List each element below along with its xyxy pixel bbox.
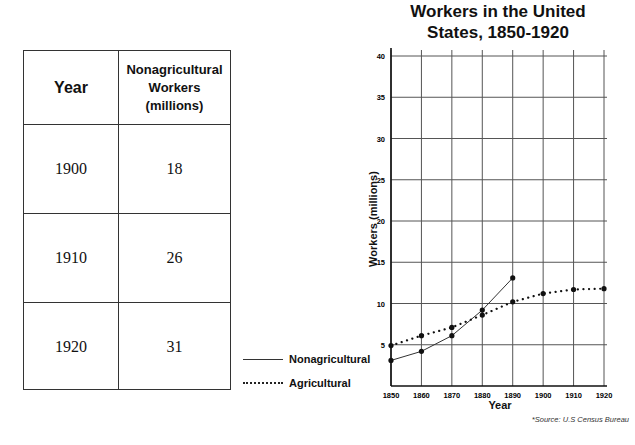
data-point-marker: [419, 333, 424, 338]
data-point-marker: [601, 286, 606, 291]
x-axis-label: Year: [470, 399, 530, 411]
data-point-marker: [449, 333, 454, 338]
x-tick-label: 1920: [596, 391, 613, 400]
data-point-marker: [571, 287, 576, 292]
data-point-marker: [541, 291, 546, 296]
y-tick-label: 5: [381, 341, 385, 350]
source-note: *Source: U.S Census Bureau: [532, 415, 629, 424]
data-point-marker: [480, 312, 485, 317]
x-tick-label: 1900: [535, 391, 552, 400]
data-point-marker: [510, 299, 515, 304]
x-tick-label: 1870: [444, 391, 461, 400]
data-point-marker: [388, 343, 393, 348]
data-point-marker: [449, 325, 454, 330]
legend-label: Nonagricultural: [289, 353, 370, 365]
legend-item-nonagricultural: Nonagricultural: [243, 353, 370, 365]
legend-item-agricultural: Agricultural: [243, 377, 351, 389]
data-point-marker: [510, 275, 515, 280]
y-tick-label: 20: [377, 217, 385, 226]
solid-line-swatch-icon: [243, 359, 283, 360]
x-tick-label: 1860: [413, 391, 430, 400]
y-tick-label: 30: [377, 135, 385, 144]
data-point-marker: [388, 358, 393, 363]
y-tick-label: 40: [377, 52, 385, 61]
dotted-line-swatch-icon: [243, 382, 283, 384]
data-point-marker: [480, 308, 485, 313]
data-point-marker: [419, 349, 424, 354]
tick-labels: 5101520253035401850186018701880189019001…: [377, 52, 613, 400]
y-tick-label: 35: [377, 93, 385, 102]
x-tick-label: 1910: [565, 391, 582, 400]
y-tick-label: 10: [377, 300, 385, 309]
legend-label: Agricultural: [289, 377, 351, 389]
x-tick-label: 1850: [383, 391, 400, 400]
y-tick-label: 15: [377, 258, 385, 267]
y-tick-label: 25: [377, 176, 385, 185]
